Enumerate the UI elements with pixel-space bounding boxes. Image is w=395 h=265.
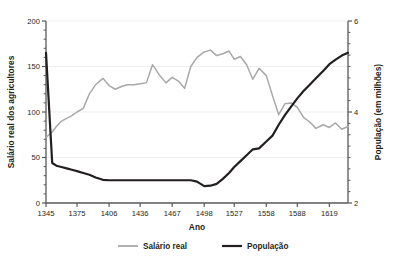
series-line-populacao xyxy=(46,53,348,186)
x-tick-label: 1345 xyxy=(38,209,55,218)
x-tick-label: 1558 xyxy=(258,209,275,218)
x-axis-title: Ano xyxy=(189,222,205,232)
series-lines-group xyxy=(46,50,348,186)
legend: Salário realPopulação xyxy=(118,242,288,251)
y-axis-left-ticks: 050100150200 xyxy=(27,17,46,208)
x-tick-label: 1406 xyxy=(101,209,118,218)
y-tick-label-right: 6 xyxy=(354,17,358,26)
x-tick-label: 1467 xyxy=(164,209,181,218)
y-tick-label-left: 50 xyxy=(32,153,40,162)
y-tick-label-right: 4 xyxy=(354,108,358,117)
y-axis-left-title: Salário real dos agricultores xyxy=(6,55,16,168)
axis-titles-group: Salário real dos agricultoresPopulação (… xyxy=(6,55,383,232)
line-chart: 050100150200 246 13451375140614361467149… xyxy=(0,0,395,265)
x-tick-label: 1619 xyxy=(321,209,338,218)
series-line-salario-real xyxy=(46,50,348,137)
x-tick-label: 1375 xyxy=(69,209,86,218)
x-axis-ticks: 1345137514061436146714981527155815881619 xyxy=(38,203,338,218)
y-tick-label-right: 2 xyxy=(354,199,358,208)
y-axis-right-ticks: 246 xyxy=(348,17,358,208)
y-tick-label-left: 0 xyxy=(36,199,40,208)
x-tick-label: 1527 xyxy=(226,209,243,218)
legend-label-0: Salário real xyxy=(143,242,187,251)
y-tick-label-left: 200 xyxy=(27,17,40,26)
chart-container: 050100150200 246 13451375140614361467149… xyxy=(0,0,395,265)
x-tick-label: 1498 xyxy=(196,209,213,218)
gridlines-group xyxy=(46,21,348,158)
legend-label-1: População xyxy=(247,242,288,251)
x-tick-label: 1588 xyxy=(289,209,306,218)
y-tick-label-left: 100 xyxy=(27,108,40,117)
x-tick-label: 1436 xyxy=(132,209,149,218)
y-tick-label-left: 150 xyxy=(27,62,40,71)
y-axis-right-title: População (em milhões) xyxy=(373,64,383,161)
